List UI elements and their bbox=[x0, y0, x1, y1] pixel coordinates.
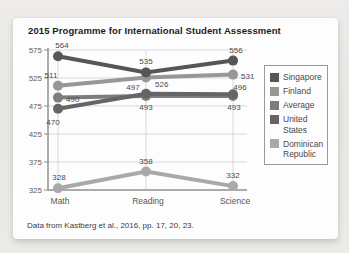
y-tick-label: 425 bbox=[29, 130, 43, 139]
y-tick-label: 525 bbox=[29, 74, 43, 83]
legend-label-dominican-republic: Dominican Republic bbox=[283, 139, 324, 160]
legend-swatch-dominican-republic bbox=[270, 139, 279, 148]
line-chart: 575525475425375325MathReadingScience5645… bbox=[13, 18, 275, 218]
series-point-united-states bbox=[53, 104, 63, 114]
point-value-label: 328 bbox=[52, 173, 66, 182]
series-point-united-states bbox=[141, 89, 151, 99]
legend-label-average: Average bbox=[283, 100, 315, 111]
series-point-singapore bbox=[228, 56, 238, 66]
legend-item-united-states: United States bbox=[270, 114, 324, 135]
series-point-dominican-republic bbox=[53, 183, 63, 193]
legend-item-singapore: Singapore bbox=[270, 72, 324, 83]
point-value-label: 497 bbox=[126, 83, 140, 92]
series-point-finland bbox=[228, 70, 238, 80]
point-value-label: 535 bbox=[139, 57, 153, 66]
point-value-label: 556 bbox=[229, 46, 243, 55]
point-value-label: 526 bbox=[155, 80, 169, 89]
point-value-label: 490 bbox=[66, 95, 80, 104]
legend-label-singapore: Singapore bbox=[283, 72, 322, 83]
point-value-label: 511 bbox=[45, 71, 58, 80]
x-category-label: Math bbox=[51, 196, 70, 206]
legend-swatch-average bbox=[270, 101, 279, 110]
series-point-singapore bbox=[53, 51, 63, 61]
point-value-label: 358 bbox=[139, 157, 153, 166]
point-value-label: 531 bbox=[241, 72, 255, 81]
source-caption: Data from Kastberg et al., 2016, pp. 17,… bbox=[27, 221, 194, 230]
legend-label-united-states: United States bbox=[283, 114, 324, 135]
point-value-label: 470 bbox=[46, 118, 60, 127]
x-category-label: Science bbox=[220, 196, 251, 206]
series-point-singapore bbox=[141, 67, 151, 77]
point-value-label: 564 bbox=[55, 41, 69, 50]
point-value-label: 496 bbox=[233, 83, 247, 92]
legend-item-finland: Finland bbox=[270, 86, 324, 97]
point-value-label: 332 bbox=[226, 171, 240, 180]
point-value-label: 493 bbox=[139, 103, 153, 112]
legend-item-average: Average bbox=[270, 100, 324, 111]
series-point-dominican-republic bbox=[141, 167, 151, 177]
legend-label-finland: Finland bbox=[283, 86, 311, 97]
x-category-label: Reading bbox=[132, 196, 164, 206]
y-tick-label: 325 bbox=[29, 186, 43, 195]
y-tick-label: 575 bbox=[29, 46, 43, 55]
legend-swatch-singapore bbox=[270, 73, 279, 82]
series-point-average bbox=[53, 93, 63, 103]
point-value-label: 493 bbox=[227, 103, 241, 112]
y-tick-label: 475 bbox=[29, 102, 43, 111]
legend-item-dominican-republic: Dominican Republic bbox=[270, 139, 324, 160]
series-point-finland bbox=[53, 81, 63, 91]
y-tick-label: 375 bbox=[29, 158, 43, 167]
legend-swatch-finland bbox=[270, 87, 279, 96]
chart-card: 2015 Programme for International Student… bbox=[13, 18, 338, 239]
legend-swatch-united-states bbox=[270, 115, 279, 124]
series-point-dominican-republic bbox=[228, 181, 238, 191]
chart-legend: SingaporeFinlandAverageUnited StatesDomi… bbox=[264, 65, 328, 165]
